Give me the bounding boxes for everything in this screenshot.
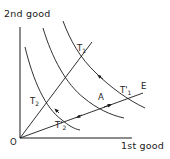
indifference-diagram: 2nd good 1st good O T1 T2 T'1 T'2 A E	[0, 0, 170, 159]
arrow-along-shallow-ray-a	[104, 105, 110, 107]
point-label-t1-prime: T'1	[119, 85, 132, 96]
y-axis-label: 2nd good	[4, 8, 50, 19]
inner-indifference-curve	[25, 47, 80, 130]
point-label-t2: T2	[29, 96, 39, 107]
x-axis-label: 1st good	[121, 140, 164, 151]
point-label-a: A	[98, 92, 104, 102]
origin-label: O	[10, 137, 17, 147]
point-label-t1: T1	[76, 43, 86, 54]
arrow-along-outer-curve	[99, 76, 103, 79]
point-label-e: E	[141, 81, 146, 91]
arrow-along-middle-curve	[56, 110, 59, 113]
